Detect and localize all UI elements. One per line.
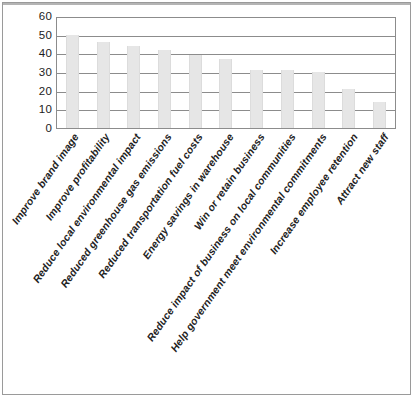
bar[interactable] bbox=[250, 70, 263, 128]
bar[interactable] bbox=[189, 55, 202, 128]
bar[interactable] bbox=[219, 59, 232, 128]
bar[interactable] bbox=[373, 102, 386, 128]
y-axis-tick-label: 60 bbox=[20, 11, 52, 23]
y-axis-tick-label: 40 bbox=[20, 49, 52, 61]
bar-series bbox=[57, 18, 395, 128]
bar[interactable] bbox=[342, 89, 355, 128]
bar[interactable] bbox=[127, 46, 140, 128]
x-axis: Improve brand imageImprove profitability… bbox=[56, 131, 396, 396]
bar[interactable] bbox=[158, 50, 171, 128]
bar[interactable] bbox=[66, 35, 79, 128]
bar[interactable] bbox=[312, 72, 325, 128]
y-axis-tick-label: 10 bbox=[20, 105, 52, 117]
y-axis-tick-label: 30 bbox=[20, 67, 52, 79]
bar[interactable] bbox=[97, 42, 110, 128]
plot-area bbox=[56, 17, 396, 129]
y-axis-tick-label: 0 bbox=[20, 123, 52, 135]
y-axis-tick-label: 20 bbox=[20, 86, 52, 98]
chart-page: 6050403020100 Improve brand imageImprove… bbox=[0, 0, 414, 398]
y-axis-tick-label: 50 bbox=[20, 30, 52, 42]
bar[interactable] bbox=[281, 70, 294, 128]
bar-chart: 6050403020100 Improve brand imageImprove… bbox=[0, 0, 414, 398]
